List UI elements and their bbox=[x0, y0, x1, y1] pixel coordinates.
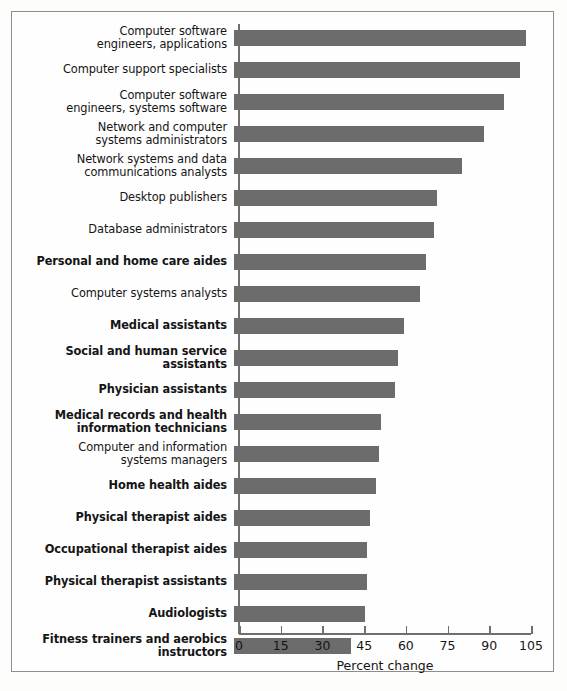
bar-track bbox=[234, 182, 536, 214]
bar bbox=[234, 574, 367, 590]
bar-row: Physician assistants bbox=[22, 374, 536, 406]
bar bbox=[234, 126, 484, 142]
x-tick-label: 60 bbox=[398, 638, 414, 653]
bar-track bbox=[234, 118, 536, 150]
bar bbox=[234, 222, 434, 238]
x-axis-line bbox=[239, 633, 531, 635]
bar-label: Audiologists bbox=[22, 607, 234, 620]
bar-row: Computer and information systems manager… bbox=[22, 438, 536, 470]
bar bbox=[234, 94, 504, 110]
x-tick-label: 15 bbox=[273, 638, 289, 653]
bar-track bbox=[234, 534, 536, 566]
chart-figure: Computer software engineers, application… bbox=[0, 0, 567, 691]
bar bbox=[234, 190, 437, 206]
bar-track bbox=[234, 566, 536, 598]
bar bbox=[234, 414, 381, 430]
bar-row: Personal and home care aides bbox=[22, 246, 536, 278]
x-axis-title: Percent change bbox=[239, 658, 531, 673]
bar-row: Computer support specialists bbox=[22, 54, 536, 86]
bar-row: Occupational therapist aides bbox=[22, 534, 536, 566]
bar-row: Computer systems analysts bbox=[22, 278, 536, 310]
bar-track bbox=[234, 310, 536, 342]
x-tick-label: 0 bbox=[235, 638, 243, 653]
bar-track bbox=[234, 22, 536, 54]
bar-label: Medical records and health information t… bbox=[22, 409, 234, 435]
bar-label: Fitness trainers and aerobics instructor… bbox=[22, 633, 234, 659]
bar-label: Network systems and data communications … bbox=[22, 153, 234, 179]
bar-track bbox=[234, 438, 536, 470]
bar-track bbox=[234, 150, 536, 182]
bar-track bbox=[234, 374, 536, 406]
bar-row: Network and computer systems administrat… bbox=[22, 118, 536, 150]
bar-track bbox=[234, 278, 536, 310]
bar bbox=[234, 638, 351, 654]
bar-label: Social and human service assistants bbox=[22, 345, 234, 371]
bar-label: Medical assistants bbox=[22, 319, 234, 332]
bar-label: Computer and information systems manager… bbox=[22, 441, 234, 467]
bar-label: Occupational therapist aides bbox=[22, 543, 234, 556]
x-tick bbox=[239, 626, 241, 634]
bar-track bbox=[234, 470, 536, 502]
x-tick-label: 30 bbox=[314, 638, 330, 653]
x-tick bbox=[406, 626, 408, 634]
x-tick bbox=[364, 626, 366, 634]
bar bbox=[234, 446, 379, 462]
bar bbox=[234, 510, 370, 526]
bar bbox=[234, 30, 526, 46]
bar-rows: Computer software engineers, application… bbox=[22, 22, 536, 662]
bar bbox=[234, 158, 462, 174]
x-tick-label: 105 bbox=[519, 638, 543, 653]
bar-label: Computer software engineers, systems sof… bbox=[22, 89, 234, 115]
bar bbox=[234, 542, 367, 558]
bar bbox=[234, 286, 420, 302]
x-tick bbox=[448, 626, 450, 634]
bar-label: Computer software engineers, application… bbox=[22, 25, 234, 51]
bar-track bbox=[234, 342, 536, 374]
bar-row: Physical therapist assistants bbox=[22, 566, 536, 598]
bar-label: Physician assistants bbox=[22, 383, 234, 396]
x-tick bbox=[322, 626, 324, 634]
bar-row: Desktop publishers bbox=[22, 182, 536, 214]
bar-row: Computer software engineers, application… bbox=[22, 22, 536, 54]
bar-label: Network and computer systems administrat… bbox=[22, 121, 234, 147]
x-tick-label: 75 bbox=[440, 638, 456, 653]
bar bbox=[234, 62, 520, 78]
bar-label: Database administrators bbox=[22, 223, 234, 236]
bar-track bbox=[234, 246, 536, 278]
bar-row: Medical assistants bbox=[22, 310, 536, 342]
bar-row: Computer software engineers, systems sof… bbox=[22, 86, 536, 118]
bar-label: Desktop publishers bbox=[22, 191, 234, 204]
x-tick-label: 90 bbox=[481, 638, 497, 653]
bar bbox=[234, 382, 395, 398]
x-tick bbox=[531, 626, 533, 634]
bar-track bbox=[234, 406, 536, 438]
bar-label: Personal and home care aides bbox=[22, 255, 234, 268]
x-tick-label: 45 bbox=[356, 638, 372, 653]
bar-track bbox=[234, 502, 536, 534]
bar-row: Home health aides bbox=[22, 470, 536, 502]
bar-row: Social and human service assistants bbox=[22, 342, 536, 374]
bar-row: Physical therapist aides bbox=[22, 502, 536, 534]
bar-row: Network systems and data communications … bbox=[22, 150, 536, 182]
bar bbox=[234, 478, 376, 494]
x-tick bbox=[281, 626, 283, 634]
bar-label: Physical therapist assistants bbox=[22, 575, 234, 588]
bar-label: Home health aides bbox=[22, 479, 234, 492]
bar-label: Computer systems analysts bbox=[22, 287, 234, 300]
bar-row: Database administrators bbox=[22, 214, 536, 246]
bar-track bbox=[234, 214, 536, 246]
bar bbox=[234, 318, 404, 334]
bar-track bbox=[234, 54, 536, 86]
bar bbox=[234, 254, 426, 270]
bar-label: Computer support specialists bbox=[22, 63, 234, 76]
bar-row: Medical records and health information t… bbox=[22, 406, 536, 438]
bar-row: Audiologists bbox=[22, 598, 536, 630]
bar-label: Physical therapist aides bbox=[22, 511, 234, 524]
bar-track bbox=[234, 86, 536, 118]
bar bbox=[234, 606, 365, 622]
x-tick bbox=[489, 626, 491, 634]
plot-area: Computer software engineers, application… bbox=[0, 0, 567, 691]
bar bbox=[234, 350, 398, 366]
